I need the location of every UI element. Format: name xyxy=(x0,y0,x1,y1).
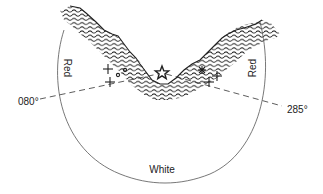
sector-label-bottom: White xyxy=(149,164,175,175)
star-icon xyxy=(155,66,168,79)
asterisk-icon xyxy=(198,66,206,74)
sector-light-diagram: Red Red White 080° 285° xyxy=(0,0,323,194)
sector-label-right: Red xyxy=(247,59,258,77)
rock-circle-icon xyxy=(116,73,119,76)
water-region xyxy=(60,6,280,100)
bearing-label-285: 285° xyxy=(287,104,308,115)
cross-icon xyxy=(105,77,115,87)
cross-icon xyxy=(103,64,113,74)
bearing-label-080: 080° xyxy=(18,96,39,107)
sector-label-left: Red xyxy=(62,59,73,77)
